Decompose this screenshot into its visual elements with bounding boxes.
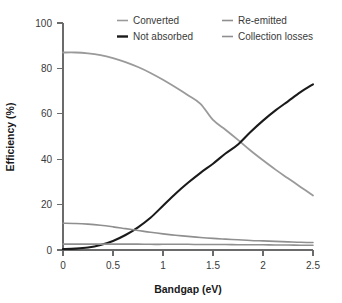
legend-label: Not absorbed <box>133 31 193 42</box>
x-tick-label: 1.5 <box>206 260 220 271</box>
chart-figure: ConvertedRe-emittedNot absorbedCollectio… <box>0 0 342 303</box>
x-axis-title: Bandgap (eV) <box>154 283 222 295</box>
x-tick-label: 0.5 <box>106 260 120 271</box>
y-tick-label: 20 <box>41 199 53 210</box>
y-tick-label: 60 <box>41 108 53 119</box>
y-tick-label: 0 <box>46 245 52 256</box>
y-tick-label: 40 <box>41 154 53 165</box>
x-tick-label: 2 <box>260 260 266 271</box>
y-tick-label: 80 <box>41 63 53 74</box>
legend-label: Collection losses <box>238 31 313 42</box>
x-tick-label: 2.5 <box>306 260 320 271</box>
y-axis-title: Efficiency (%) <box>4 103 16 172</box>
x-tick-label: 1 <box>160 260 166 271</box>
chart-background <box>0 0 342 303</box>
y-tick-label: 100 <box>35 18 52 29</box>
efficiency-vs-bandgap-chart: ConvertedRe-emittedNot absorbedCollectio… <box>0 0 342 303</box>
x-tick-label: 0 <box>60 260 66 271</box>
legend-label: Re-emitted <box>238 15 287 26</box>
legend-label: Converted <box>133 15 179 26</box>
